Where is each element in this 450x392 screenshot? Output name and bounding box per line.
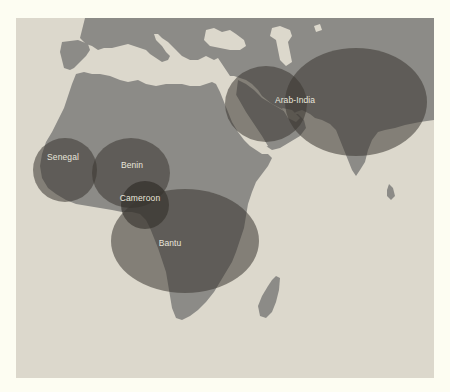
region-bantu[interactable] (111, 189, 259, 293)
label-arab-india: Arab-India (275, 95, 315, 105)
label-bantu: Bantu (159, 238, 182, 248)
region-senegal[interactable] (33, 138, 97, 202)
label-senegal: Senegal (47, 152, 79, 162)
landmass-sri-lanka (387, 184, 395, 200)
map-panel: Senegal Benin Cameroon Bantu Arab-India (16, 18, 434, 378)
landmass-madagascar (258, 276, 280, 318)
landmass-iberia (60, 40, 90, 70)
label-benin: Benin (121, 160, 143, 170)
map-canvas (16, 18, 434, 378)
label-cameroon: Cameroon (120, 193, 161, 203)
